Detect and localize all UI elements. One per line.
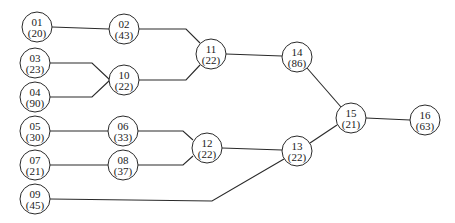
node-11: 11(22)	[196, 39, 226, 69]
edge-14-15	[307, 68, 341, 107]
node-03: 03(23)	[20, 48, 50, 78]
node-09: 09(45)	[20, 184, 50, 214]
node-value-label: (37)	[114, 165, 133, 178]
node-value-label: (86)	[288, 57, 307, 70]
edge-10-11	[139, 65, 200, 80]
nodes-layer: 01(20)02(43)03(23)04(90)10(22)11(22)14(8…	[20, 12, 440, 214]
node-01: 01(20)	[22, 12, 52, 42]
node-12: 12(22)	[192, 133, 222, 163]
edge-06-12	[138, 131, 193, 140]
node-value-label: (21)	[26, 165, 45, 178]
node-value-label: (30)	[26, 131, 45, 144]
node-10: 10(22)	[109, 65, 139, 95]
node-14: 14(86)	[282, 42, 312, 72]
node-value-label: (43)	[115, 29, 134, 42]
node-value-label: (22)	[115, 80, 134, 93]
node-value-label: (23)	[26, 63, 45, 76]
edge-01-02	[52, 27, 109, 29]
node-value-label: (21)	[342, 118, 361, 131]
node-16: 16(63)	[410, 105, 440, 135]
node-06: 06(33)	[108, 116, 138, 146]
node-15: 15(21)	[336, 103, 366, 133]
node-value-label: (22)	[202, 54, 221, 67]
edge-15-16	[366, 118, 410, 120]
node-07: 07(21)	[20, 150, 50, 180]
edge-08-12	[138, 156, 193, 165]
node-value-label: (45)	[26, 199, 45, 212]
node-value-label: (33)	[114, 131, 133, 144]
edge-11-14	[226, 54, 282, 56]
node-13: 13(22)	[282, 136, 312, 166]
node-value-label: (22)	[288, 151, 307, 164]
edge-13-15	[310, 125, 337, 143]
node-04: 04(90)	[20, 82, 50, 112]
edge-02-11	[139, 29, 200, 43]
tree-diagram: 01(20)02(43)03(23)04(90)10(22)11(22)14(8…	[0, 0, 455, 223]
edge-12-13	[222, 148, 282, 150]
node-value-label: (22)	[198, 148, 217, 161]
node-02: 02(43)	[109, 14, 139, 44]
node-08: 08(37)	[108, 150, 138, 180]
node-value-label: (63)	[416, 120, 435, 133]
node-value-label: (20)	[28, 27, 47, 40]
edge-03-10	[50, 63, 110, 80]
node-value-label: (90)	[26, 97, 45, 110]
node-05: 05(30)	[20, 116, 50, 146]
edge-04-10	[50, 80, 110, 97]
